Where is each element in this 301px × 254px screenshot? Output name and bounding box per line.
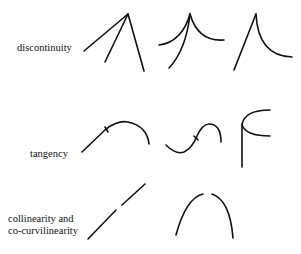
collinearity-figure-2 [176, 194, 233, 238]
tangency-figure-3 [242, 110, 270, 167]
discontinuity-figure-1 [84, 14, 144, 71]
discontinuity-figure-3 [234, 14, 292, 70]
figures-svg [0, 0, 301, 254]
collinearity-figure-1 [88, 184, 145, 239]
tangency-figure-1 [82, 122, 149, 152]
discontinuity-figure-2 [159, 14, 224, 68]
tangency-figure-2 [166, 124, 221, 153]
diagram-canvas: discontinuity tangency collinearity and … [0, 0, 301, 254]
